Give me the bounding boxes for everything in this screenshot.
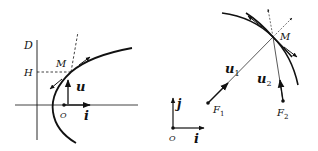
label-f1: F1 — [212, 104, 224, 118]
dashed-normal-line — [71, 32, 78, 72]
label-origin-o-right: O — [169, 134, 176, 143]
label-i: i — [84, 108, 89, 123]
label-f2: F2 — [276, 107, 288, 121]
label-origin-o: O — [60, 111, 67, 120]
label-m-right: M — [279, 31, 291, 42]
label-j: j — [175, 97, 182, 111]
label-u: u — [76, 79, 85, 94]
focus-point-o — [62, 103, 66, 107]
label-m: M — [55, 58, 67, 69]
diagram-canvas: D H M u O i M u1 — [0, 0, 318, 151]
origin-point — [171, 126, 175, 130]
vector-u1-arrow — [208, 83, 228, 103]
label-u2: u2 — [257, 71, 272, 88]
focus-point-f1 — [206, 101, 210, 105]
label-directrix-d: D — [23, 39, 33, 52]
bifocal-figure: M u1 u2 F1 F2 j O i — [169, 9, 298, 146]
parabola-figure: D H M u O i — [15, 32, 138, 143]
label-u1: u1 — [225, 61, 240, 78]
label-i-right: i — [194, 131, 199, 146]
focus-point-f2 — [281, 99, 285, 103]
vector-u2-arrow — [280, 80, 283, 101]
label-h: H — [23, 67, 33, 78]
